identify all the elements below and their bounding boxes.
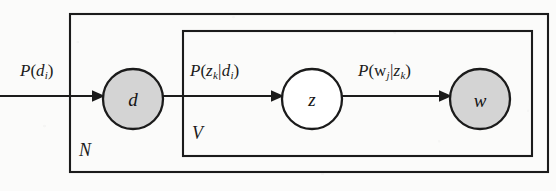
edge-label-var: d [36,61,45,80]
edge-label-p: P [358,61,368,80]
edge-label-prior-to-d: P(di) [20,62,53,81]
edge-label-var: z [206,61,213,80]
edge-label-d-to-z: P(zk|di) [190,62,239,81]
edge-label-p: P [190,61,200,80]
node-z [282,69,342,129]
edge-label-paren-close: ) [48,61,54,80]
plate-label-v: V [192,124,203,142]
plate-label-n: N [79,141,91,159]
edge-label-var: w [374,61,386,80]
edge-label-paren-close: ) [405,61,411,80]
plate-diagram-graphics [0,0,556,191]
node-d [103,69,163,129]
edge-label-z-to-w: P(wj|zk) [358,62,411,81]
edge-label-p: P [20,61,30,80]
edge-label-paren-close: ) [234,61,240,80]
node-w [450,69,510,129]
figure-canvas: d z w P(di) P(zk|di) P(wj|zk) N V [0,0,556,191]
edge-label-var2: d [222,61,231,80]
